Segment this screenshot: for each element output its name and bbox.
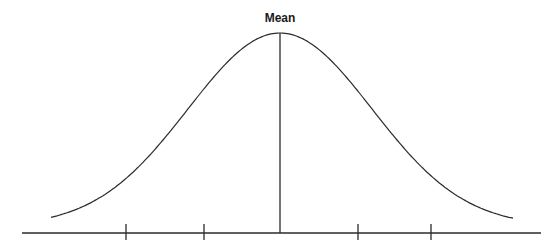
bell-curve-diagram xyxy=(0,0,560,251)
normal-curve xyxy=(51,33,513,218)
mean-label: Mean xyxy=(265,11,296,25)
axis-ticks xyxy=(126,224,431,240)
